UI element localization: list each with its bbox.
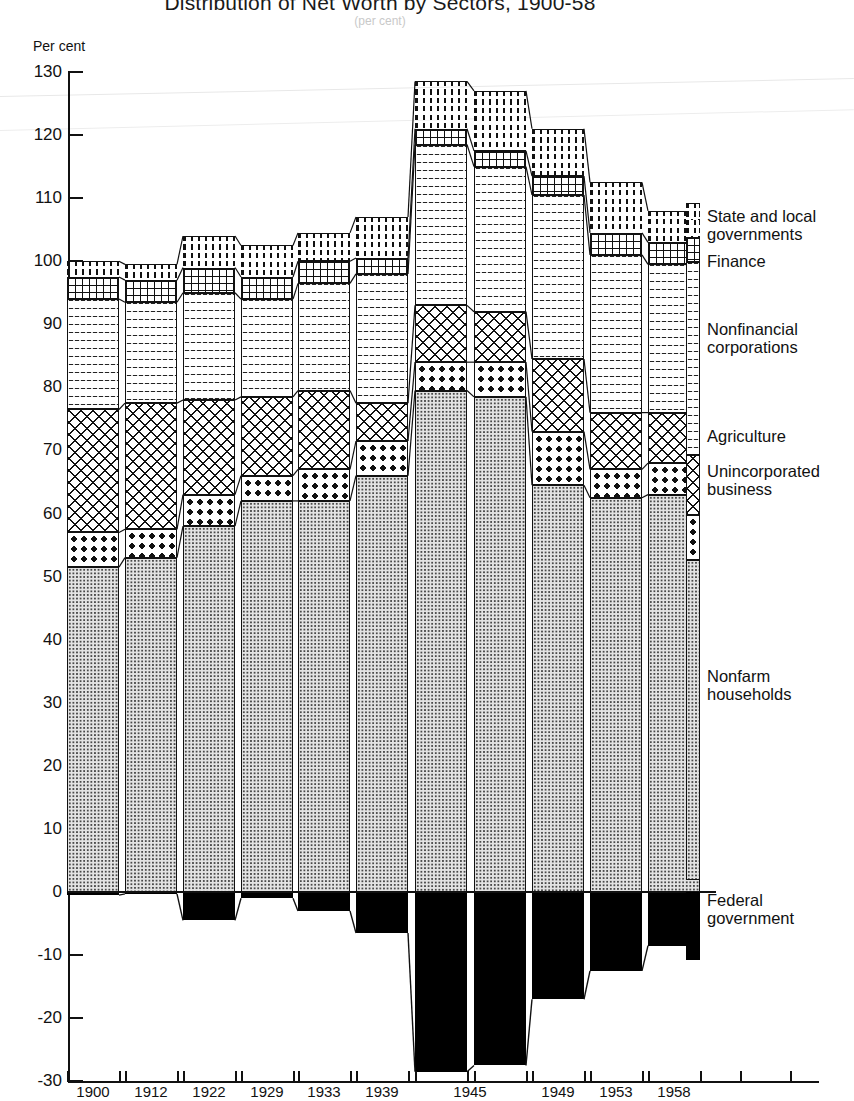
bar-segment-nonfarm-households[interactable] (356, 476, 408, 892)
bar-segment-nonfarm-households[interactable] (125, 558, 177, 892)
x-axis-tick (532, 1071, 534, 1082)
bar-segment-agriculture[interactable] (532, 359, 584, 432)
x-axis-label: 1939 (365, 1083, 398, 1100)
legend-label-finance: Finance (707, 252, 766, 270)
bar-segment-unincorporated-business[interactable] (241, 476, 293, 501)
bar-segment-federal-government[interactable] (532, 892, 584, 999)
bar-segment-state-and-local-governments[interactable] (183, 236, 235, 268)
bar-segment-nonfarm-households[interactable] (67, 567, 119, 892)
x-axis-tick (125, 1071, 127, 1082)
bar-segment-nonfarm-households[interactable] (298, 501, 350, 892)
bar-segment-nonfinancial-corporations[interactable] (474, 167, 526, 312)
x-axis-tick (526, 1071, 528, 1082)
bar-segment-state-and-local-governments[interactable] (298, 233, 350, 261)
bar-segment-finance[interactable] (590, 233, 642, 255)
bar-segment-nonfinancial-corporations[interactable] (125, 302, 177, 403)
x-axis-tick (235, 1071, 237, 1082)
y-axis-label: 130 (6, 63, 62, 80)
chart-root: Distribution of Net Worth by Sectors, 19… (0, 0, 854, 1101)
bar-segment-finance[interactable] (356, 258, 408, 274)
bar-segment-unincorporated-business[interactable] (590, 469, 642, 497)
y-axis-tick (68, 71, 83, 73)
bar-segment-nonfarm-households[interactable] (183, 526, 235, 892)
bar-segment-nonfinancial-corporations[interactable] (356, 274, 408, 403)
bar-segment-state-and-local-governments[interactable] (474, 91, 526, 151)
bar-segment-nonfarm-households[interactable] (474, 397, 526, 892)
bar-segment-state-and-local-governments[interactable] (125, 264, 177, 280)
bar-segment-state-and-local-governments[interactable] (532, 129, 584, 176)
bar-segment-federal-government[interactable] (590, 892, 642, 971)
bar-segment-unincorporated-business[interactable] (298, 469, 350, 501)
bar-segment-state-and-local-governments[interactable] (415, 81, 467, 128)
bar-segment-finance[interactable] (125, 280, 177, 302)
legend-label-agri: Agriculture (707, 427, 786, 445)
bar-segment-nonfinancial-corporations[interactable] (415, 145, 467, 306)
bar-segment-agriculture[interactable] (67, 409, 119, 532)
bar-segment-unincorporated-business[interactable] (415, 362, 467, 390)
x-axis-label: 1949 (541, 1083, 574, 1100)
bar-segment-agriculture[interactable] (183, 400, 235, 495)
bar-segment-state-and-local-governments[interactable] (67, 261, 119, 277)
bar-segment-federal-government[interactable] (298, 892, 350, 911)
y-axis-label: 20 (6, 757, 62, 774)
bar-segment-finance[interactable] (241, 277, 293, 299)
x-axis-tick (183, 1071, 185, 1082)
bar-segment-nonfarm-households[interactable] (590, 498, 642, 892)
bar-segment-agriculture[interactable] (474, 312, 526, 362)
bar-segment-unincorporated-business[interactable] (183, 495, 235, 527)
bar-segment-finance[interactable] (474, 151, 526, 167)
x-axis-tick (408, 1071, 410, 1082)
bar-segment-finance[interactable] (67, 277, 119, 299)
bar-segment-nonfinancial-corporations[interactable] (183, 293, 235, 400)
bar-segment-nonfinancial-corporations[interactable] (241, 299, 293, 397)
bar-segment-federal-government[interactable] (474, 892, 526, 1065)
bar-segment-finance[interactable] (532, 176, 584, 195)
y-axis-label: -10 (6, 946, 62, 963)
bar-segment-unincorporated-business[interactable] (125, 529, 177, 557)
y-axis-label: -20 (6, 1009, 62, 1026)
bar-segment-state-and-local-governments[interactable] (590, 182, 642, 232)
bar-segment-nonfarm-households[interactable] (415, 391, 467, 892)
bar-segment-unincorporated-business[interactable] (356, 441, 408, 476)
legend-swatch-nonfin (686, 262, 700, 455)
bar-segment-state-and-local-governments[interactable] (241, 245, 293, 277)
x-axis-label: 1953 (599, 1083, 632, 1100)
x-axis-tick (642, 1071, 644, 1082)
x-axis-tick (67, 1071, 69, 1082)
x-axis-label: 1929 (250, 1083, 283, 1100)
bar-segment-nonfinancial-corporations[interactable] (590, 255, 642, 413)
x-axis-tick (648, 1071, 650, 1082)
bar-segment-agriculture[interactable] (590, 413, 642, 470)
legend-label-state: State and local governments (707, 207, 816, 243)
bar-segment-agriculture[interactable] (125, 403, 177, 529)
legend-swatch-nonfarm (686, 560, 700, 880)
y-axis-label: 70 (6, 441, 62, 458)
y-axis-tick (68, 197, 83, 199)
bar-segment-unincorporated-business[interactable] (474, 362, 526, 397)
bar-segment-federal-government[interactable] (183, 892, 235, 920)
bar-segment-federal-government[interactable] (356, 892, 408, 933)
y-axis-title: Per cent (33, 38, 85, 54)
x-axis-tick (356, 1071, 358, 1082)
bar-segment-unincorporated-business[interactable] (67, 532, 119, 567)
bar-segment-agriculture[interactable] (356, 403, 408, 441)
bar-segment-nonfarm-households[interactable] (241, 501, 293, 892)
bar-segment-agriculture[interactable] (241, 397, 293, 476)
bar-segment-nonfinancial-corporations[interactable] (67, 299, 119, 409)
bar-segment-finance[interactable] (183, 268, 235, 293)
y-axis-label: 0 (6, 883, 62, 900)
y-axis-label: 50 (6, 568, 62, 585)
bar-segment-federal-government[interactable] (415, 892, 467, 1072)
bar-segment-nonfinancial-corporations[interactable] (532, 195, 584, 359)
x-axis-tick (584, 1071, 586, 1082)
bar-segment-agriculture[interactable] (298, 391, 350, 470)
y-axis-tick (68, 134, 83, 136)
bar-segment-nonfarm-households[interactable] (532, 485, 584, 892)
bar-segment-state-and-local-governments[interactable] (356, 217, 408, 258)
bar-segment-finance[interactable] (415, 129, 467, 145)
bar-segment-unincorporated-business[interactable] (532, 432, 584, 486)
bar-segment-finance[interactable] (298, 261, 350, 283)
bar-segment-agriculture[interactable] (415, 305, 467, 362)
y-axis-label: 90 (6, 315, 62, 332)
bar-segment-nonfinancial-corporations[interactable] (298, 283, 350, 390)
